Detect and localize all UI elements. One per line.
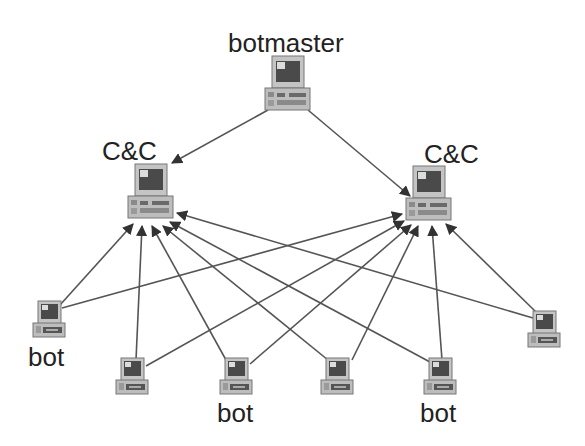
edge-bot1-cc2 bbox=[62, 214, 402, 308]
bot-middle-label: bot bbox=[217, 400, 253, 426]
edge-bot1-cc1 bbox=[60, 224, 133, 305]
bot2-computer-icon bbox=[116, 358, 148, 394]
bot3-computer-icon bbox=[220, 358, 252, 394]
bot1-computer-icon bbox=[33, 301, 65, 337]
edge-bot4-cc2 bbox=[352, 226, 418, 360]
edge-bot2-cc1 bbox=[136, 226, 142, 360]
bot4-computer-icon bbox=[321, 358, 353, 394]
bot5-computer-icon bbox=[424, 358, 456, 394]
cc-left-computer-icon bbox=[128, 164, 173, 218]
botmaster-computer-icon bbox=[265, 56, 310, 110]
bot-left-label: bot bbox=[28, 344, 64, 370]
edge-botmaster-cc2 bbox=[308, 110, 410, 196]
cc-right-computer-icon bbox=[406, 166, 451, 220]
cc-right-label: C&C bbox=[424, 141, 479, 167]
botmaster-label: botmaster bbox=[228, 30, 344, 56]
edge-botmaster-cc1 bbox=[172, 110, 268, 163]
bot6-computer-icon bbox=[528, 311, 560, 347]
cc-left-label: C&C bbox=[102, 138, 157, 164]
bot-right-label: bot bbox=[420, 400, 456, 426]
edge-bot6-cc2 bbox=[446, 224, 536, 312]
edge-bot6-cc1 bbox=[177, 213, 533, 318]
botnet-diagram bbox=[0, 0, 585, 446]
edge-bot5-cc2 bbox=[432, 226, 442, 360]
